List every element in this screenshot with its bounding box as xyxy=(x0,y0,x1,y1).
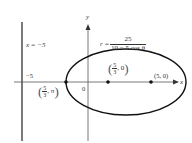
y-axis-arrow-icon xyxy=(86,24,91,30)
left-vertex-label: (53, π) xyxy=(38,85,59,98)
equation-fraction: 25 10 − 5 cos θ xyxy=(111,36,145,52)
point-right-vertex xyxy=(149,80,153,84)
origin-label: 0 xyxy=(82,86,85,93)
x-axis-label: x xyxy=(180,79,183,86)
tick-label-neg5: −5 xyxy=(26,73,33,80)
x-axis-arrow-icon xyxy=(173,80,179,85)
focus-label: (53, 0) xyxy=(108,62,129,75)
equation-denominator: 10 − 5 cos θ xyxy=(111,45,145,53)
point-focus xyxy=(106,80,110,84)
equation-lhs: r = xyxy=(100,40,109,48)
y-axis-label: y xyxy=(86,14,89,21)
directrix-label: x = −5 xyxy=(26,42,46,49)
equation-label: r = 25 10 − 5 cos θ xyxy=(100,36,145,52)
point-left-vertex xyxy=(64,80,68,84)
right-vertex-label: (5, 0) xyxy=(154,73,168,80)
